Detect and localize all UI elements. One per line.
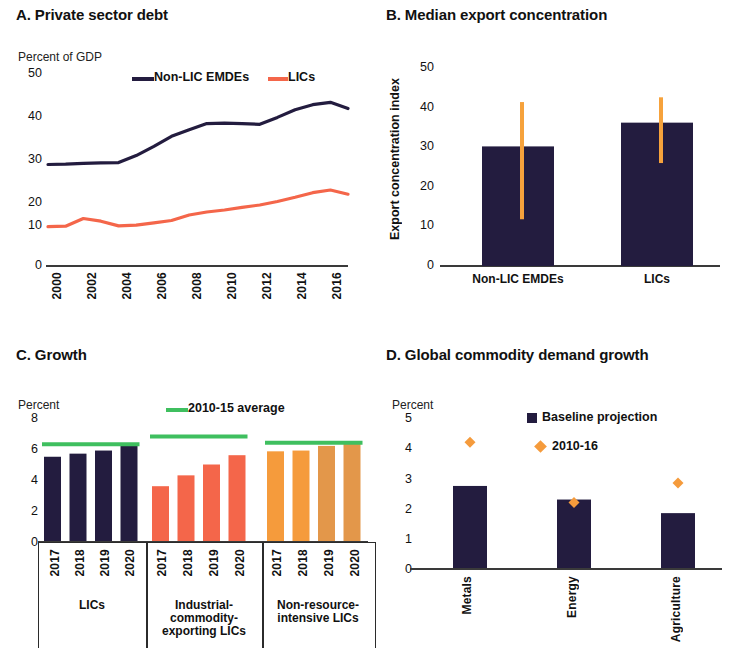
panel-c-xtick-lics-2018: 2018 bbox=[73, 549, 87, 577]
panel-c-bar bbox=[44, 457, 61, 542]
panel-c-xtick-lics-2017: 2017 bbox=[48, 549, 62, 577]
panel-c-xtick-nonresource-2019: 2019 bbox=[322, 549, 336, 577]
panel-c-xtick-industrial-2018: 2018 bbox=[181, 549, 195, 577]
panel-a-xtick-2006: 2006 bbox=[155, 272, 169, 300]
panel-c-xtick-industrial-2017: 2017 bbox=[155, 549, 169, 577]
panel-d-bar bbox=[557, 500, 591, 569]
panel-b-xtick-non-lic-emdes: Non-LIC EMDEs bbox=[448, 272, 588, 286]
panel-d-diamond-marker bbox=[465, 437, 476, 448]
panel-a-xtick-2004: 2004 bbox=[120, 272, 134, 300]
panel-a-xtick-2008: 2008 bbox=[190, 272, 204, 300]
panel-b-bar-lics bbox=[621, 123, 693, 266]
panel-c-growth: C. Growth Percent 8 6 4 2 0 2010-15 aver… bbox=[8, 346, 380, 652]
panel-a-xtick-2002: 2002 bbox=[85, 272, 99, 300]
panel-c-xtick-lics-2020: 2020 bbox=[123, 549, 137, 577]
panel-c-bar bbox=[229, 455, 246, 542]
panel-d-bar bbox=[661, 513, 695, 569]
panel-b-xtick-lics: LICs bbox=[602, 272, 712, 286]
panel-c-bar-plot bbox=[8, 346, 380, 556]
panel-b-bar-non-lic-emdes bbox=[482, 146, 554, 266]
panel-d-global-commodity-demand-growth: D. Global commodity demand growth Percen… bbox=[382, 346, 732, 652]
panel-d-xtick-agriculture: Agriculture bbox=[669, 576, 683, 642]
panel-d-bar-plot bbox=[382, 346, 732, 586]
panel-c-bar bbox=[318, 446, 335, 542]
panel-d-diamond-marker bbox=[673, 477, 684, 488]
panel-c-xtick-industrial-2019: 2019 bbox=[207, 549, 221, 577]
panel-c-bar bbox=[267, 451, 284, 542]
panel-d-xtick-energy: Energy bbox=[565, 576, 579, 618]
figure-container: A. Private sector debt Percent of GDP 50… bbox=[0, 0, 732, 656]
panel-c-xtick-nonresource-2017: 2017 bbox=[270, 549, 284, 577]
panel-a-line-plot bbox=[8, 6, 368, 286]
panel-c-xtick-industrial-2020: 2020 bbox=[233, 549, 247, 577]
panel-d-xtick-metals: Metals bbox=[460, 576, 474, 615]
panel-c-bar bbox=[203, 465, 220, 543]
panel-a-xtick-2016: 2016 bbox=[330, 272, 344, 300]
panel-c-bar bbox=[95, 451, 112, 542]
panel-a-series-lics bbox=[48, 190, 348, 227]
panel-c-xtick-nonresource-2020: 2020 bbox=[348, 549, 362, 577]
panel-a-xtick-2000: 2000 bbox=[50, 272, 64, 300]
panel-d-bar bbox=[453, 486, 487, 569]
panel-c-bar bbox=[178, 475, 195, 542]
panel-b-median-export-concentration: B. Median export concentration Export co… bbox=[382, 6, 730, 326]
panel-c-xtick-lics-2019: 2019 bbox=[98, 549, 112, 577]
panel-a-xtick-2014: 2014 bbox=[295, 272, 309, 300]
panel-a-xtick-2010: 2010 bbox=[225, 272, 239, 300]
panel-a-xtick-2012: 2012 bbox=[260, 272, 274, 300]
panel-c-group-label-non-resource: Non-resource-intensive LICs bbox=[263, 599, 373, 625]
panel-b-bar-plot bbox=[382, 6, 730, 291]
panel-c-bar bbox=[121, 446, 138, 542]
panel-c-xtick-nonresource-2018: 2018 bbox=[296, 549, 310, 577]
panel-c-bar bbox=[344, 442, 361, 542]
panel-c-bar bbox=[293, 451, 310, 542]
panel-c-bar bbox=[152, 486, 169, 542]
panel-a-series-non-lic-emdes bbox=[48, 102, 348, 164]
panel-c-group-label-lics: LICs bbox=[40, 599, 144, 612]
panel-a-private-sector-debt: A. Private sector debt Percent of GDP 50… bbox=[8, 6, 368, 326]
panel-c-bar bbox=[70, 454, 87, 542]
panel-c-group-label-industrial: Industrial-commodity-exporting LICs bbox=[147, 599, 261, 638]
